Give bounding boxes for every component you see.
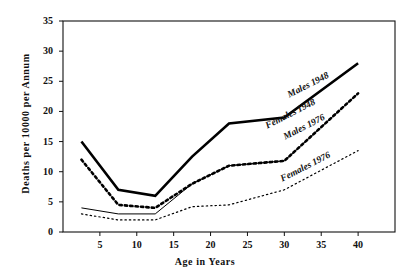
x-tick-label: 40	[346, 239, 370, 250]
series-line	[81, 93, 358, 214]
y-tick-label: 30	[29, 45, 53, 56]
x-tick-label: 5	[88, 239, 112, 250]
y-axis-ticks	[59, 21, 63, 232]
y-axis-title: Deaths per 10000 per Annum	[20, 39, 31, 209]
axis-frame	[63, 21, 395, 232]
y-tick-label: 5	[29, 196, 53, 207]
x-tick-label: 20	[199, 239, 223, 250]
chart-plot-area	[0, 0, 408, 275]
x-tick-label: 10	[125, 239, 149, 250]
chart-container: Deaths per 10000 per Annum Age in Years …	[0, 0, 408, 275]
series-paths	[81, 63, 358, 220]
x-axis-ticks	[100, 232, 358, 236]
y-tick-label: 20	[29, 105, 53, 116]
y-tick-label: 10	[29, 166, 53, 177]
y-tick-label: 25	[29, 75, 53, 86]
x-tick-label: 30	[272, 239, 296, 250]
x-tick-label: 35	[309, 239, 333, 250]
x-tick-label: 15	[162, 239, 186, 250]
y-tick-label: 0	[29, 226, 53, 237]
x-axis-title: Age in Years	[120, 256, 290, 267]
y-tick-label: 15	[29, 136, 53, 147]
y-tick-label: 35	[29, 15, 53, 26]
x-tick-label: 25	[235, 239, 259, 250]
